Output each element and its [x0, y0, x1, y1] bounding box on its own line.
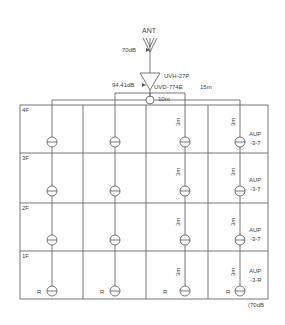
outlet-model-4f-b: -3-7 — [250, 139, 261, 147]
outlet-model-4f-a: AUP — [249, 130, 261, 138]
outlet-model-2f-a: AUP — [249, 226, 261, 234]
terminal-mark: R — [100, 288, 104, 296]
antenna-level: 70dB — [122, 46, 136, 54]
floor-label-2f: 2F — [22, 204, 29, 212]
outlet-model-1f-a: AUP — [249, 267, 261, 275]
amplifier-model: UVH-27P — [164, 72, 189, 80]
riser-length: 3m — [174, 118, 182, 126]
floor-label-4f: 4F — [22, 106, 29, 114]
terminal-mark: R — [37, 288, 41, 296]
distributor-model: UVD-774E — [154, 83, 183, 91]
riser-length: 3m — [229, 118, 237, 126]
riser-length: 3m — [174, 168, 182, 176]
riser-length: 3m — [174, 218, 182, 226]
antenna-label: ANT — [142, 27, 156, 35]
terminal-mark: R — [163, 288, 167, 296]
end-level: (70dB — [248, 301, 264, 309]
floor-label-3f: 3F — [22, 154, 29, 162]
floor-label-1f: 1F — [22, 252, 29, 260]
outlet-model-3f-b: -3-7 — [250, 185, 261, 193]
outlet-model-2f-b: -3-7 — [250, 235, 261, 243]
outlet-model-3f-a: AUP — [249, 176, 261, 184]
antenna-icon — [143, 38, 157, 73]
riser-length: 3m — [229, 168, 237, 176]
riser-length: 3m — [174, 268, 182, 276]
cable-length-right: 15m — [200, 83, 212, 91]
terminal-mark: R — [226, 288, 230, 296]
wiring-diagram — [0, 0, 285, 325]
riser-length: 3m — [229, 268, 237, 276]
distributor-icon — [146, 96, 154, 104]
cable-length-left: 10m — [158, 95, 170, 103]
riser-length: 3m — [229, 218, 237, 226]
amplifier-output-level: 94.41dB — [112, 81, 134, 89]
outlet-model-1f-b: -3-R — [250, 276, 262, 284]
